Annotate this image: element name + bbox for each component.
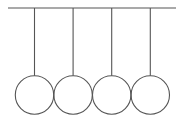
- ball: [54, 76, 92, 114]
- ball: [15, 76, 53, 114]
- pendulums: [15, 8, 169, 114]
- newtons-cradle-diagram: [0, 0, 180, 125]
- ball: [131, 76, 169, 114]
- ball: [93, 76, 131, 114]
